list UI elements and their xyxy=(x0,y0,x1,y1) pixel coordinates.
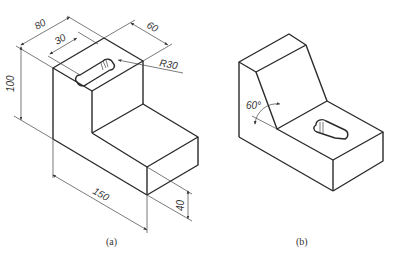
dim-80: 80 xyxy=(33,16,49,31)
angle-60: 60° xyxy=(246,100,261,111)
dim-60: 60 xyxy=(145,19,161,34)
figure-b-part xyxy=(239,34,383,191)
dim-150: 150 xyxy=(91,185,111,203)
dim-40: 40 xyxy=(175,199,186,211)
dim-100: 100 xyxy=(5,75,16,92)
caption-a: (a) xyxy=(106,236,117,248)
caption-b: (b) xyxy=(296,236,308,248)
dim-r30: R30 xyxy=(159,57,179,71)
drawing-canvas: 80 30 60 R30 100 150 40 (a) xyxy=(0,0,398,264)
figure-a-dimensions: 80 30 60 R30 100 150 40 xyxy=(5,16,192,233)
